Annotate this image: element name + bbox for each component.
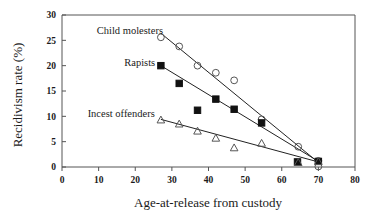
filled-square-marker bbox=[158, 62, 164, 68]
x-axis-title: Age-at-release from custody bbox=[134, 195, 282, 210]
filled-square-marker bbox=[176, 80, 182, 86]
recidivism-scatter-chart: 01020304050607080 051015202530 Child mol… bbox=[0, 0, 376, 223]
x-tick-label: 60 bbox=[277, 175, 287, 185]
y-tick-label: 5 bbox=[51, 137, 56, 147]
series-label: Child molesters bbox=[97, 25, 163, 36]
plot-canvas: 01020304050607080 051015202530 Child mol… bbox=[0, 0, 376, 223]
y-tick-label: 30 bbox=[47, 10, 57, 20]
chart-background bbox=[0, 0, 376, 223]
series-label: Incest offenders bbox=[88, 108, 155, 119]
x-tick-label: 30 bbox=[167, 175, 177, 185]
x-tick-label: 70 bbox=[314, 175, 324, 185]
filled-square-marker bbox=[231, 106, 237, 112]
filled-square-marker bbox=[213, 96, 219, 102]
x-tick-label: 50 bbox=[240, 175, 250, 185]
filled-square-marker bbox=[258, 120, 264, 126]
x-tick-label: 40 bbox=[204, 175, 214, 185]
x-tick-label: 0 bbox=[60, 175, 65, 185]
y-tick-label: 0 bbox=[51, 162, 56, 172]
x-tick-label: 10 bbox=[94, 175, 104, 185]
x-tick-label: 80 bbox=[350, 175, 360, 185]
y-tick-label: 15 bbox=[47, 86, 57, 96]
x-tick-label: 20 bbox=[131, 175, 141, 185]
series-label: Rapists bbox=[124, 57, 155, 68]
y-axis-title: Recidivism rate (%) bbox=[10, 43, 25, 148]
y-tick-label: 10 bbox=[47, 112, 57, 122]
filled-square-marker bbox=[194, 107, 200, 113]
y-tick-label: 25 bbox=[47, 36, 57, 46]
y-tick-label: 20 bbox=[47, 61, 57, 71]
